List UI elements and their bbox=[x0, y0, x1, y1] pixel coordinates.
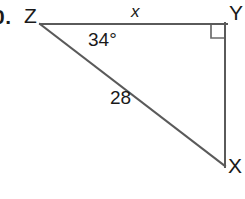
geometry-figure: 0. Z Y X x 34° 28 bbox=[0, 0, 245, 199]
triangle-side-zx-hypotenuse bbox=[40, 24, 225, 166]
problem-number-label: 0. bbox=[0, 6, 12, 27]
angle-measure-label: 34° bbox=[88, 30, 117, 49]
side-length-label-x: x bbox=[131, 3, 140, 20]
vertex-label-z: Z bbox=[24, 5, 37, 26]
vertex-label-y: Y bbox=[229, 2, 243, 23]
vertex-label-x: X bbox=[228, 155, 242, 176]
right-angle-marker-icon bbox=[211, 25, 224, 38]
hypotenuse-length-label: 28 bbox=[110, 88, 131, 107]
